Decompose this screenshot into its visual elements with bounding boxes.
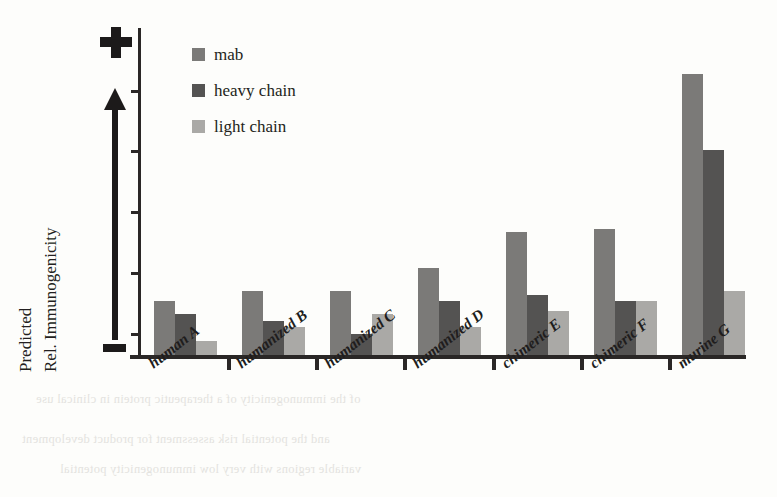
immunogenicity-bar-chart: Predicted Rel. Immunogenicity human Ahum… (0, 0, 777, 497)
arrow-shaft (112, 106, 118, 340)
axis-minus-symbol (103, 344, 126, 352)
y-axis-tick (131, 272, 140, 275)
legend-label: heavy chain (214, 82, 296, 99)
axis-plus-symbol (99, 26, 133, 60)
legend-item: heavy chain (192, 72, 372, 108)
legend-swatch-icon (192, 48, 205, 61)
legend-item: light chain (192, 108, 372, 144)
bar (682, 74, 703, 357)
legend-item: mab (192, 36, 372, 72)
legend-label: mab (214, 46, 243, 63)
y-axis-tick (131, 211, 140, 214)
chart-legend: mabheavy chainlight chain (192, 36, 372, 144)
y-axis-tick (131, 90, 140, 93)
y-axis-tick (131, 333, 140, 336)
bar (724, 291, 745, 357)
x-axis-labels: human Ahumanized Bhumanized Chumanized D… (138, 358, 777, 458)
y-axis-title: Predicted Rel. Immunogenicity (12, 0, 96, 380)
y-axis-tick (131, 150, 140, 153)
legend-swatch-icon (192, 120, 205, 133)
legend-swatch-icon (192, 84, 205, 97)
axis-direction-arrow-icon (104, 88, 126, 340)
legend-label: light chain (214, 118, 286, 135)
y-axis-title-line-2: Rel. Immunogenicity (41, 228, 61, 372)
y-axis-title-line-1: Predicted (16, 308, 36, 372)
